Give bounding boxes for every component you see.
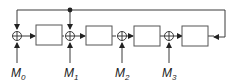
- input-label-0: M0: [11, 66, 26, 82]
- input-label-1: M1: [64, 66, 78, 82]
- adder-icon-0: [13, 32, 22, 41]
- adder-icon-3: [165, 32, 174, 41]
- input-label-3: M3: [162, 66, 177, 82]
- block-4: [182, 26, 208, 46]
- block-diagram: M0 M1 M2 M3: [0, 0, 237, 82]
- adder-icon-2: [118, 32, 127, 41]
- block-2: [86, 26, 112, 45]
- block-3: [134, 26, 160, 46]
- input-label-2: M2: [115, 66, 130, 82]
- junction-dot: [68, 8, 73, 13]
- block-1: [36, 25, 62, 45]
- adder-icon-1: [66, 32, 75, 41]
